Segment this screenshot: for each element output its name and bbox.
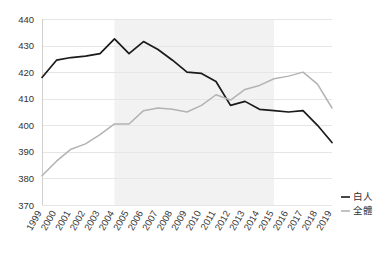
y-axis-tick-label: 410: [18, 93, 34, 104]
y-axis-tick-labels: 370380390400410420430440: [18, 14, 34, 211]
x-axis-tick-labels: 1999200020012002200320042005200620072008…: [24, 209, 334, 233]
y-axis-tick-label: 420: [18, 67, 34, 78]
chart-canvas: 370380390400410420430440 199920002001200…: [0, 0, 392, 275]
line-chart: 370380390400410420430440 199920002001200…: [0, 0, 392, 275]
legend-label: 全體: [353, 205, 373, 216]
y-axis-tick-label: 430: [18, 40, 34, 51]
x-axis-tick-label: 2019: [314, 209, 334, 233]
y-axis-tick-label: 390: [18, 146, 34, 157]
legend: 白人全體: [341, 191, 373, 216]
y-axis-tick-label: 380: [18, 173, 34, 184]
legend-label: 白人: [353, 191, 373, 202]
y-axis-tick-label: 440: [18, 14, 34, 25]
y-axis-tick-label: 400: [18, 120, 34, 131]
y-axis-tick-label: 370: [18, 200, 34, 211]
